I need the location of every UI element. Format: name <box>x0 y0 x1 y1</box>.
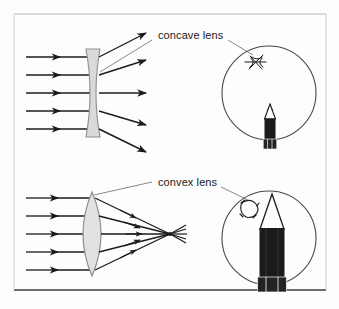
concave-lens-label: concave lens <box>158 29 224 41</box>
lens-diagram-figure: concave lens <box>0 0 339 309</box>
lens-diagram-canvas: concave lens <box>0 0 339 309</box>
convex-lens-label: convex lens <box>158 176 218 188</box>
focal-point-marker <box>168 232 172 236</box>
figure-background <box>0 0 339 309</box>
